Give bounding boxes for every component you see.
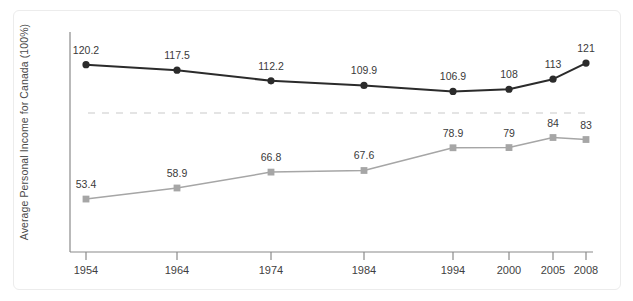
data-point-marker[interactable] xyxy=(83,196,90,203)
series-lower-series: 53.458.966.867.678.9798483 xyxy=(76,117,592,203)
data-point-label: 113 xyxy=(545,58,562,70)
data-point-label: 79 xyxy=(503,127,515,139)
data-point-marker[interactable] xyxy=(268,169,275,176)
data-point-label: 117.5 xyxy=(164,49,190,61)
x-tick-label: 1964 xyxy=(165,264,189,276)
x-tick-label: 2005 xyxy=(541,264,565,276)
axis-group xyxy=(70,32,593,252)
data-point-label: 121 xyxy=(577,42,595,54)
data-point-marker[interactable] xyxy=(267,77,274,84)
data-point-label: 58.9 xyxy=(167,167,188,179)
data-point-label: 53.4 xyxy=(76,178,97,190)
data-point-marker[interactable] xyxy=(505,86,512,93)
chart-container: Average Personal Income for Canada (100%… xyxy=(0,0,633,301)
x-tick-label: 2008 xyxy=(574,264,598,276)
data-point-label: 78.9 xyxy=(443,127,464,139)
line-chart-svg: 19541964197419841994200020052008 53.458.… xyxy=(0,0,633,301)
data-point-marker[interactable] xyxy=(506,144,513,151)
data-point-label: 66.8 xyxy=(261,151,282,163)
data-point-marker[interactable] xyxy=(550,134,557,141)
data-point-marker[interactable] xyxy=(450,144,457,151)
data-point-label: 120.2 xyxy=(73,44,99,56)
data-point-marker[interactable] xyxy=(549,76,556,83)
data-point-marker[interactable] xyxy=(361,167,368,174)
data-point-label: 108 xyxy=(500,68,518,80)
x-tick-label: 1984 xyxy=(352,264,376,276)
data-point-marker[interactable] xyxy=(174,185,181,192)
x-tick-label: 1974 xyxy=(259,264,283,276)
data-point-marker[interactable] xyxy=(449,88,456,95)
data-point-marker[interactable] xyxy=(582,60,589,67)
data-point-label: 83 xyxy=(580,119,592,131)
x-tick-label: 1994 xyxy=(441,264,465,276)
data-point-label: 106.9 xyxy=(440,70,466,82)
x-tick-label: 2000 xyxy=(497,264,521,276)
series-upper-series: 120.2117.5112.2109.9106.9108113121 xyxy=(73,42,595,95)
data-point-marker[interactable] xyxy=(82,61,89,68)
x-tick-label: 1954 xyxy=(74,264,98,276)
data-point-label: 84 xyxy=(547,117,559,129)
data-point-marker[interactable] xyxy=(173,67,180,74)
data-point-label: 67.6 xyxy=(354,149,375,161)
data-point-marker[interactable] xyxy=(360,82,367,89)
data-point-label: 112.2 xyxy=(258,60,284,72)
x-axis-ticks: 19541964197419841994200020052008 xyxy=(74,252,598,276)
data-point-label: 109.9 xyxy=(351,64,377,76)
data-point-marker[interactable] xyxy=(583,136,590,143)
